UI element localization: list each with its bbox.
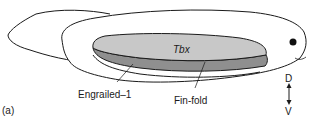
arrow-down-head-icon (287, 100, 292, 105)
panel-label: (a) (2, 105, 14, 116)
dorsal-label: D (285, 73, 292, 84)
engrailed-label: Engrailed–1 (78, 89, 132, 100)
ventral-label: V (285, 106, 292, 117)
embryo-diagram: Tbx Engrailed–1 Fin-fold D V (a) (0, 0, 319, 120)
finfold-label: Fin-fold (174, 95, 207, 106)
tbx-label: Tbx (173, 44, 191, 55)
eye-icon (290, 39, 297, 46)
